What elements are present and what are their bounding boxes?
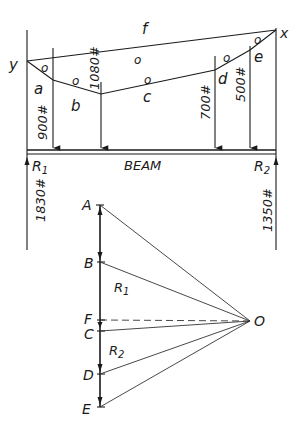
pole-label-O: O — [254, 313, 265, 329]
point-label-x: x — [279, 25, 289, 41]
ray-E-O — [100, 321, 250, 407]
polygon-label-F: F — [84, 311, 93, 327]
load-label-900: 900# — [35, 104, 50, 140]
ray-C-O — [100, 321, 250, 331]
point-label-d: d — [218, 70, 228, 88]
force-polygon: A B F C D E O R1 R2 — [81, 197, 265, 417]
pole-mark: o — [223, 51, 230, 65]
r1-arrow-head — [25, 157, 30, 165]
r1-value: 1830# — [33, 178, 48, 222]
funicular-polygon-diagram: y x a b c d e f o o o o o o 900# 1080# 7… — [0, 0, 297, 439]
polygon-label-E: E — [82, 401, 91, 417]
polygon-label-D: D — [83, 367, 94, 383]
ray-D-O — [100, 321, 250, 374]
point-label-c: c — [143, 88, 152, 106]
point-label-e: e — [254, 48, 263, 66]
polygon-label-C: C — [84, 326, 94, 342]
r2-value: 1350# — [260, 188, 275, 232]
arrow-C — [98, 322, 103, 328]
beam-label: BEAM — [124, 158, 161, 173]
pole-mark: o — [134, 53, 141, 67]
load-label-500: 500# — [233, 66, 248, 102]
arrow-down-B — [98, 252, 103, 260]
r1-polygon-label: R1 — [114, 280, 129, 297]
point-label-y: y — [8, 56, 19, 74]
polygon-label-A: A — [81, 197, 92, 213]
point-label-a: a — [34, 80, 43, 98]
pole-mark: o — [72, 74, 79, 88]
arrow-up-A — [98, 207, 103, 215]
ray-F-O-dashed — [100, 320, 250, 321]
point-label-b: b — [71, 97, 81, 115]
pole-mark: o — [144, 73, 151, 87]
r2-arrow-head — [274, 157, 279, 165]
space-diagram: y x a b c d e f o o o o o o 900# 1080# 7… — [8, 20, 289, 250]
r2-label: R2 — [254, 158, 270, 176]
load-label-1080: 1080# — [87, 46, 102, 90]
load-label-700: 700# — [198, 84, 213, 120]
pole-mark: o — [254, 33, 261, 47]
point-label-f: f — [142, 20, 150, 38]
arrow-down-D — [98, 364, 103, 372]
ray-A-O — [100, 205, 250, 321]
r2-polygon-label: R2 — [109, 343, 124, 360]
arrow-down-E — [98, 397, 103, 405]
polygon-label-B: B — [84, 255, 94, 271]
pole-mark: o — [41, 61, 48, 75]
r1-label: R1 — [32, 158, 48, 176]
